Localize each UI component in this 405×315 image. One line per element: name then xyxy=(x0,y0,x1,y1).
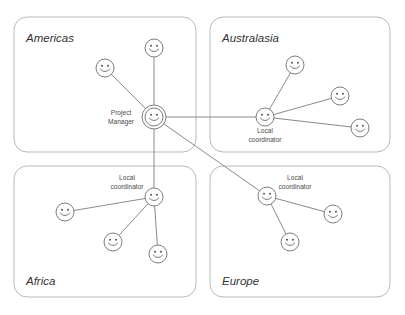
smiley-eye-icon xyxy=(356,125,358,127)
node-europe-coordinator[interactable] xyxy=(258,187,276,205)
smiley-face-icon xyxy=(96,59,114,77)
node-africa-member-3[interactable] xyxy=(149,245,167,263)
smiley-face-icon xyxy=(256,108,274,126)
smiley-face-icon xyxy=(258,187,276,205)
smiley-face-icon xyxy=(145,188,163,206)
smiley-face-icon xyxy=(145,39,163,57)
smiley-face-icon xyxy=(324,205,342,223)
node-americas-member-1[interactable] xyxy=(96,59,114,77)
smiley-eye-icon xyxy=(336,93,338,95)
smiley-eye-icon xyxy=(291,62,293,64)
smiley-eye-icon xyxy=(115,239,117,241)
smiley-eye-icon xyxy=(156,194,158,196)
smiley-eye-icon xyxy=(267,114,269,116)
smiley-eye-icon xyxy=(156,45,158,47)
smiley-eye-icon xyxy=(335,211,337,213)
smiley-eye-icon xyxy=(297,62,299,64)
smiley-eye-icon xyxy=(269,193,271,195)
node-americas-member-2[interactable] xyxy=(145,39,163,57)
smiley-face-icon xyxy=(56,203,74,221)
smiley-face-icon xyxy=(286,56,304,74)
node-label-project-manager: ProjectManager xyxy=(108,109,135,126)
node-australasia-member-2[interactable] xyxy=(331,87,349,105)
smiley-eye-icon xyxy=(150,194,152,196)
smiley-eye-icon xyxy=(286,239,288,241)
smiley-eye-icon xyxy=(67,209,69,211)
smiley-eye-icon xyxy=(329,211,331,213)
smiley-eye-icon xyxy=(107,65,109,67)
smiley-face-icon xyxy=(351,119,369,137)
node-australasia-member-3[interactable] xyxy=(351,119,369,137)
node-africa-member-2[interactable] xyxy=(104,233,122,251)
smiley-eye-icon xyxy=(150,45,152,47)
smiley-face-icon xyxy=(149,245,167,263)
region-label-africa: Africa xyxy=(25,275,55,287)
node-africa-coordinator[interactable] xyxy=(145,188,163,206)
node-europe-member-2[interactable] xyxy=(281,233,299,251)
smiley-eye-icon xyxy=(150,114,152,116)
network-diagram: ProjectManagerLocalcoordinatorLocalcoord… xyxy=(0,0,405,315)
smiley-eye-icon xyxy=(156,114,158,116)
smiley-eye-icon xyxy=(154,251,156,253)
node-project-manager[interactable] xyxy=(142,105,166,129)
smiley-face-icon xyxy=(104,233,122,251)
smiley-eye-icon xyxy=(160,251,162,253)
smiley-face-icon xyxy=(331,87,349,105)
region-label-australasia: Australasia xyxy=(221,32,279,44)
region-label-americas: Americas xyxy=(25,32,74,44)
smiley-eye-icon xyxy=(261,114,263,116)
node-africa-member-1[interactable] xyxy=(56,203,74,221)
node-europe-member-1[interactable] xyxy=(324,205,342,223)
smiley-eye-icon xyxy=(292,239,294,241)
smiley-eye-icon xyxy=(101,65,103,67)
region-label-europe: Europe xyxy=(222,275,259,287)
smiley-face-icon xyxy=(281,233,299,251)
smiley-eye-icon xyxy=(342,93,344,95)
smiley-eye-icon xyxy=(263,193,265,195)
node-australasia-coordinator[interactable] xyxy=(256,108,274,126)
smiley-eye-icon xyxy=(109,239,111,241)
smiley-face-icon xyxy=(145,108,163,126)
region-boxes-layer xyxy=(14,17,390,297)
smiley-eye-icon xyxy=(61,209,63,211)
smiley-eye-icon xyxy=(362,125,364,127)
node-australasia-member-1[interactable] xyxy=(286,56,304,74)
